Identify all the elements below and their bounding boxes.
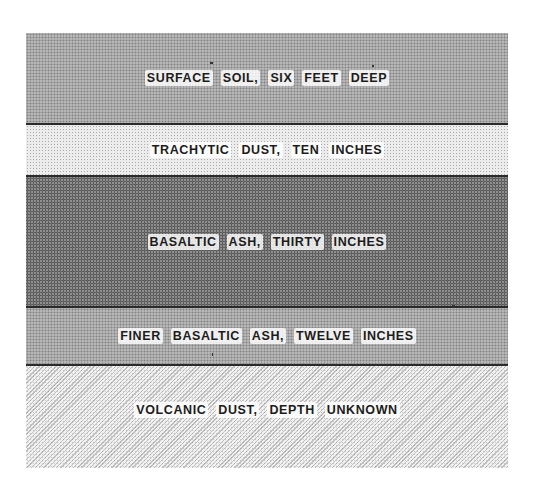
label-word: TWELVE — [294, 328, 353, 344]
layer-label: FINER BASALTIC ASH, TWELVE INCHES — [118, 328, 415, 344]
layer-finer-basaltic-ash: FINER BASALTIC ASH, TWELVE INCHES — [26, 308, 508, 366]
label-word: TRACHYTIC — [150, 142, 232, 158]
speck-mark — [372, 65, 374, 67]
label-word: INCHES — [332, 234, 387, 250]
label-word: BASALTIC — [171, 328, 242, 344]
label-word: TEN — [291, 142, 322, 158]
label-word: THIRTY — [271, 234, 324, 250]
label-word: DUST, — [239, 142, 282, 158]
layer-label: VOLCANIC DUST, DEPTH UNKNOWN — [134, 402, 399, 418]
speck-mark — [210, 62, 213, 64]
label-word: SURFACE — [145, 70, 213, 86]
stratigraphic-section: SURFACE SOIL, SIX FEET DEEP TRACHYTIC DU… — [26, 33, 508, 468]
label-word: VOLCANIC — [134, 402, 208, 418]
label-word: SOIL, — [221, 70, 261, 86]
label-word: INCHES — [361, 328, 416, 344]
label-word: DUST, — [216, 402, 259, 418]
layer-label: SURFACE SOIL, SIX FEET DEEP — [145, 70, 389, 86]
speck-mark — [212, 353, 213, 356]
label-word: UNKNOWN — [325, 402, 400, 418]
layer-label: BASALTIC ASH, THIRTY INCHES — [148, 234, 387, 250]
label-word: ASH, — [227, 234, 263, 250]
layer-trachytic-dust: TRACHYTIC DUST, TEN INCHES — [26, 125, 508, 177]
label-word: INCHES — [329, 142, 384, 158]
layer-basaltic-ash: BASALTIC ASH, THIRTY INCHES — [26, 177, 508, 308]
label-word: DEPTH — [267, 402, 316, 418]
label-word: ASH, — [250, 328, 286, 344]
label-word: SIX — [268, 70, 294, 86]
speck-mark — [452, 305, 455, 307]
layer-label: TRACHYTIC DUST, TEN INCHES — [150, 142, 384, 158]
label-word: FEET — [302, 70, 340, 86]
speck-mark — [236, 176, 238, 178]
label-word: FINER — [118, 328, 163, 344]
label-word: DEEP — [349, 70, 389, 86]
layer-surface-soil: SURFACE SOIL, SIX FEET DEEP — [26, 33, 508, 125]
layer-volcanic-dust: VOLCANIC DUST, DEPTH UNKNOWN — [26, 366, 508, 468]
label-word: BASALTIC — [148, 234, 219, 250]
